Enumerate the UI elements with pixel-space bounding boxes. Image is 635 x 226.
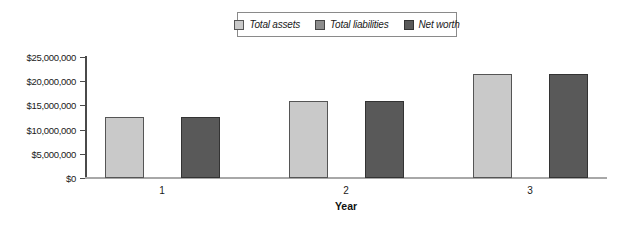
y-tick-label: $5,000,000 [6,149,76,160]
y-tick-mark [80,154,85,155]
bar-net-worth-year-2 [365,101,404,178]
legend-item-0: Total assets [234,19,300,30]
legend: Total assetsTotal liabilitiesNet worth [237,12,457,37]
legend-label: Total liabilities [330,19,389,30]
x-axis [85,177,607,179]
legend-swatch-icon [315,20,325,30]
legend-item-2: Net worth [404,19,460,30]
y-tick-label: $0 [6,173,76,184]
x-tick-label: 3 [510,185,550,196]
bar-net-worth-year-3 [549,74,588,178]
y-tick-mark [80,81,85,82]
legend-swatch-icon [404,20,414,30]
legend-label: Net worth [419,19,460,30]
x-axis-title: Year [316,200,376,212]
y-tick-label: $15,000,000 [6,100,76,111]
y-tick-label: $25,000,000 [6,52,76,63]
bar-chart: Total assetsTotal liabilitiesNet worth $… [0,0,635,226]
bar-total-assets-year-1 [105,117,144,178]
bar-total-assets-year-3 [473,74,512,178]
bar-net-worth-year-1 [181,117,220,178]
x-tick-label: 2 [326,185,366,196]
legend-swatch-icon [234,20,244,30]
y-tick-mark [80,178,85,179]
y-axis [85,56,87,179]
legend-label: Total assets [249,19,300,30]
y-tick-mark [80,57,85,58]
legend-item-1: Total liabilities [315,19,389,30]
y-tick-mark [80,105,85,106]
y-tick-mark [80,130,85,131]
y-tick-label: $20,000,000 [6,76,76,87]
bar-total-assets-year-2 [289,101,328,178]
y-tick-label: $10,000,000 [6,125,76,136]
x-tick-label: 1 [142,185,182,196]
